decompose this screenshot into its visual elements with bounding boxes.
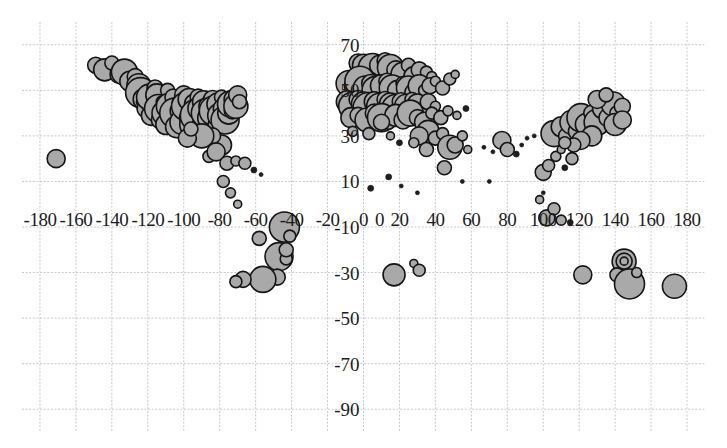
x-tick-label: 40 [426,210,444,229]
data-point-bubble [250,266,276,292]
data-point-bubble [513,151,519,157]
x-tick-label: -180 [24,210,57,229]
scatter-plot-figure: -180-160-140-120-100-80-60-40-2002040608… [0,0,727,448]
data-point-bubble [184,122,198,136]
data-point-bubble [396,140,402,146]
data-point-bubble [520,143,524,147]
data-point-bubble [613,111,631,129]
data-point-bubble [532,134,536,138]
data-point-bubble [620,257,628,265]
data-point-bubble [457,131,467,141]
y-tick-label: -50 [320,309,360,328]
x-tick-label: 80 [498,210,516,229]
data-point-bubble [383,264,405,286]
data-point-bubble [234,200,242,208]
data-point-bubble [541,191,545,195]
data-point-bubble [599,88,613,102]
data-point-bubble [559,137,571,149]
x-tick-label: -60 [244,210,268,229]
x-tick-label: 120 [566,210,593,229]
data-point-bubble [451,70,459,78]
x-tick-label: 100 [530,210,557,229]
data-point-bubble [566,153,578,165]
data-point-bubble [386,174,392,180]
data-point-bubble [217,175,229,187]
data-point-bubble [453,111,461,119]
data-point-bubble [562,165,568,171]
x-tick-label: 20 [390,210,408,229]
data-point-bubble [232,95,246,109]
data-point-bubble [437,161,451,175]
data-point-bubble [419,143,433,157]
y-tick-label: -70 [320,354,360,373]
y-tick-label: 30 [320,126,360,145]
y-tick-label: -10 [320,218,360,237]
y-tick-label: -30 [320,263,360,282]
data-point-bubble [47,150,65,168]
y-tick-label: 10 [320,172,360,191]
x-tick-label: 140 [602,210,629,229]
data-point-bubble [239,157,251,169]
x-tick-label: 0 [359,210,368,229]
y-tick-label: 70 [320,35,360,54]
x-tick-label: -40 [280,210,304,229]
x-tick-label: -160 [59,210,92,229]
x-tick-label: -120 [131,210,164,229]
data-point-bubble [363,128,375,140]
data-point-bubble [413,264,425,276]
data-point-bubble [259,173,263,177]
data-point-bubble [225,188,235,198]
data-point-bubble [373,114,389,130]
data-point-bubble [463,106,469,112]
data-point-bubble [252,231,266,245]
data-point-bubble [662,274,686,298]
data-point-bubble [279,243,293,257]
x-tick-label: -80 [208,210,232,229]
y-tick-label: -90 [320,400,360,419]
data-point-bubble [251,167,257,173]
data-point-bubble [386,132,394,140]
data-point-bubble [525,136,529,140]
x-tick-label-zero-duplicate: 0 [375,210,384,229]
data-point-bubble [415,191,419,195]
data-point-bubble [460,179,464,183]
data-point-bubble [284,230,296,242]
data-point-bubble [487,179,491,183]
x-tick-label: -100 [167,210,200,229]
x-tick-label: 180 [674,210,701,229]
data-point-bubble [574,266,592,284]
data-point-bubble [409,138,419,148]
x-tick-label: 160 [638,210,665,229]
x-tick-label: -140 [95,210,128,229]
data-point-bubble [500,143,514,157]
y-tick-label: 50 [320,81,360,100]
data-point-bubble [399,184,403,188]
data-point-bubble [464,146,472,154]
data-point-bubble [368,185,374,191]
data-point-bubble [482,145,486,149]
data-point-bubble [491,150,495,154]
x-tick-label: 60 [462,210,480,229]
data-point-bubble [443,106,453,116]
data-point-bubble [632,268,642,278]
data-point-bubble [536,196,544,204]
data-point-bubble [230,276,242,288]
